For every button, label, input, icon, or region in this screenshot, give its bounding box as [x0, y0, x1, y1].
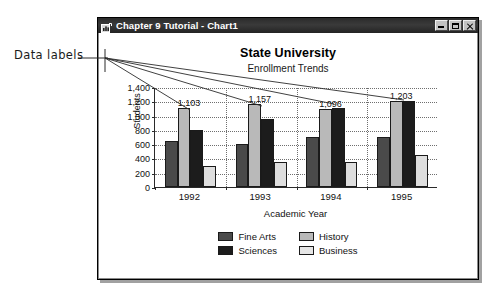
legend-item-business[interactable]: Business [299, 245, 358, 256]
window-body: State University Enrollment Trends Stude… [98, 33, 478, 279]
legend-swatch-icon [299, 246, 314, 255]
chart-object[interactable]: State University Enrollment Trends Stude… [102, 36, 474, 275]
bar-business-1995[interactable] [415, 155, 428, 187]
data-label[interactable]: 1,103 [178, 98, 201, 108]
x-category-label: 1994 [320, 191, 341, 202]
vertical-gridline [226, 88, 227, 187]
bar-history-1995[interactable] [403, 101, 416, 187]
y-tick-label: 400 [135, 154, 150, 164]
bar-sciences-1992[interactable] [178, 108, 191, 187]
legend-swatch-icon [218, 232, 233, 241]
y-tick-label: 800 [135, 126, 150, 136]
data-label[interactable]: 1,157 [248, 94, 271, 104]
bar-business-1993[interactable] [274, 162, 287, 187]
legend-grid: Fine ArtsHistorySciencesBusiness [218, 231, 357, 256]
bar-fine-arts-1994[interactable] [306, 137, 319, 187]
vertical-gridline [297, 88, 298, 187]
maximize-button[interactable] [449, 20, 462, 31]
chart-legend: Fine ArtsHistorySciencesBusiness [102, 231, 474, 256]
chart-document-icon [101, 20, 112, 31]
bar-history-1994[interactable] [332, 108, 345, 187]
y-tick-mark [152, 131, 155, 132]
bar-fine-arts-1993[interactable] [236, 144, 249, 187]
y-tick-label: 0 [145, 183, 150, 193]
x-tick-mark [226, 187, 227, 190]
bar-business-1992[interactable] [203, 166, 216, 187]
minimize-icon [436, 21, 447, 30]
bar-history-1992[interactable] [190, 130, 203, 187]
bar-fine-arts-1992[interactable] [165, 141, 178, 187]
annotation-data-labels: Data labels [14, 48, 83, 62]
y-tick-label: 1,400 [127, 83, 150, 93]
data-label[interactable]: 1,203 [390, 91, 413, 101]
minimize-button[interactable] [435, 20, 448, 31]
y-tick-mark [152, 102, 155, 103]
y-tick-label: 1,200 [127, 97, 150, 107]
maximize-icon [450, 21, 461, 30]
close-button[interactable] [463, 20, 476, 31]
legend-swatch-icon [299, 232, 314, 241]
legend-item-sciences[interactable]: Sciences [218, 245, 277, 256]
x-category-label: 1995 [391, 191, 412, 202]
data-label[interactable]: 1,096 [319, 99, 342, 109]
window-title: Chapter 9 Tutorial - Chart1 [116, 20, 432, 31]
bar-fine-arts-1995[interactable] [377, 137, 390, 187]
y-tick-mark [152, 117, 155, 118]
bar-history-1993[interactable] [261, 119, 274, 187]
chart-window: Chapter 9 Tutorial - Chart1 State Univer… [97, 17, 479, 280]
y-tick-label: 200 [135, 169, 150, 179]
x-category-label: 1993 [250, 191, 271, 202]
legend-item-history[interactable]: History [299, 231, 358, 242]
x-tick-mark [155, 187, 156, 190]
bar-sciences-1994[interactable] [319, 109, 332, 187]
legend-label: Business [319, 245, 358, 256]
x-tick-mark [297, 187, 298, 190]
legend-item-fine-arts[interactable]: Fine Arts [218, 231, 277, 242]
x-category-label: 1992 [179, 191, 200, 202]
legend-label: History [319, 231, 349, 242]
y-tick-mark [152, 145, 155, 146]
chart-subtitle: Enrollment Trends [102, 63, 474, 74]
legend-label: Sciences [238, 245, 277, 256]
legend-label: Fine Arts [238, 231, 276, 242]
title-bar[interactable]: Chapter 9 Tutorial - Chart1 [98, 18, 478, 33]
y-tick-mark [152, 88, 155, 89]
bar-business-1994[interactable] [345, 162, 358, 187]
y-tick-label: 1,000 [127, 112, 150, 122]
bar-sciences-1995[interactable] [390, 101, 403, 187]
close-icon [464, 21, 475, 30]
x-tick-mark [367, 187, 368, 190]
plot-block: Students 02004006008001,0001,2001,400 Ac… [102, 88, 474, 193]
chart-title: State University [102, 46, 474, 60]
vertical-gridline [367, 88, 368, 187]
bar-sciences-1993[interactable] [248, 104, 261, 187]
x-axis-title: Academic Year [154, 208, 437, 219]
y-tick-label: 600 [135, 140, 150, 150]
y-axis-tick-labels: 02004006008001,0001,2001,400 [118, 88, 152, 193]
y-tick-mark [152, 159, 155, 160]
legend-swatch-icon [218, 246, 233, 255]
y-tick-mark [152, 174, 155, 175]
